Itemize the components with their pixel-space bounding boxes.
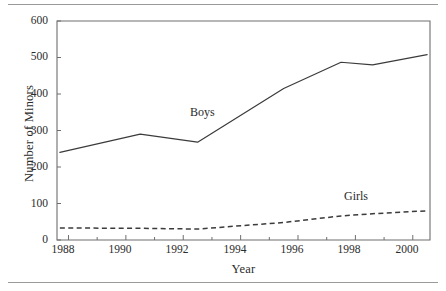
series-annotation-boys: Boys bbox=[190, 105, 215, 120]
x-tick-label-2000: 2000 bbox=[384, 243, 430, 255]
x-tick-label-1988: 1988 bbox=[40, 243, 86, 255]
axis-frame bbox=[57, 21, 430, 240]
x-axis-label: Year bbox=[57, 262, 430, 277]
series-line-girls bbox=[60, 211, 427, 229]
y-tick-label-600: 600 bbox=[8, 14, 48, 26]
x-tick-label-1996: 1996 bbox=[269, 243, 315, 255]
chart-figure: Number of Minors Year 600 500 400 300 20… bbox=[0, 0, 446, 291]
y-tick-label-100: 100 bbox=[8, 197, 48, 209]
plot-border bbox=[57, 21, 430, 240]
y-axis-ticks bbox=[57, 21, 61, 240]
y-tick-label-400: 400 bbox=[8, 87, 48, 99]
x-tick-label-1998: 1998 bbox=[326, 243, 372, 255]
y-tick-label-200: 200 bbox=[8, 160, 48, 172]
y-tick-label-300: 300 bbox=[8, 124, 48, 136]
x-tick-label-1990: 1990 bbox=[97, 243, 143, 255]
series-line-boys bbox=[60, 55, 427, 153]
x-axis-major-ticks bbox=[68, 235, 412, 240]
series-annotation-girls: Girls bbox=[344, 189, 368, 204]
y-tick-label-500: 500 bbox=[8, 50, 48, 62]
x-tick-label-1994: 1994 bbox=[212, 243, 258, 255]
x-tick-label-1992: 1992 bbox=[154, 243, 200, 255]
